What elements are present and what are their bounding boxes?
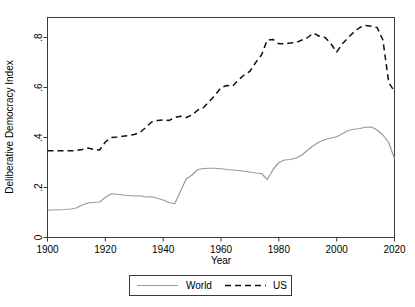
x-tick-label: 1960 — [210, 244, 233, 255]
legend-label-us: US — [273, 280, 287, 291]
y-tick-label: .2 — [33, 183, 44, 192]
y-tick-label: .8 — [33, 33, 44, 42]
y-tick-label: 0 — [33, 234, 44, 240]
legend-label-world: World — [186, 280, 212, 291]
y-tick-label: .4 — [33, 133, 44, 142]
x-tick-label: 1940 — [152, 244, 175, 255]
x-tick-label: 1920 — [94, 244, 117, 255]
y-tick-label: .6 — [33, 83, 44, 92]
x-tick-label: 2020 — [383, 244, 406, 255]
chart-figure: 0.2.4.6.8 1900192019401960198020002020 D… — [0, 0, 415, 307]
chart-legend: World US — [130, 276, 292, 296]
x-tick-label: 1900 — [36, 244, 59, 255]
deliberative-democracy-index-line-chart: 0.2.4.6.8 1900192019401960198020002020 D… — [0, 0, 415, 307]
y-axis-title: Deliberative Democracy Index — [4, 60, 15, 193]
chart-background — [0, 0, 415, 307]
x-tick-label: 1980 — [268, 244, 291, 255]
x-axis-title: Year — [211, 255, 232, 266]
x-tick-label: 2000 — [326, 244, 349, 255]
